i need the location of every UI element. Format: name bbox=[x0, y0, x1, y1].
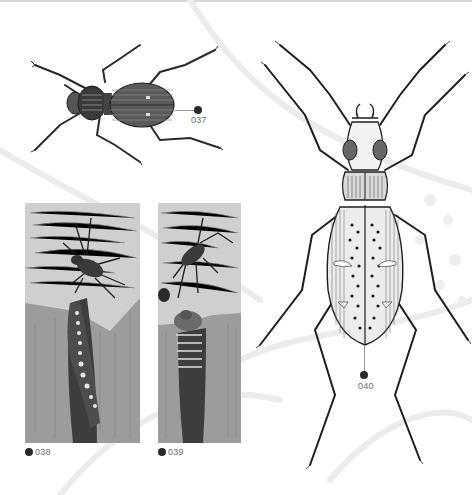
figure-039-panel bbox=[158, 203, 241, 443]
callout-dot-039 bbox=[158, 448, 166, 456]
figure-label-037: 037 bbox=[191, 115, 207, 125]
beetle-037-illustration bbox=[0, 0, 240, 180]
figure-label-040: 040 bbox=[358, 381, 374, 391]
callout-dot-037 bbox=[194, 106, 202, 114]
leader-line-040 bbox=[364, 345, 365, 373]
figure-label-039: 039 bbox=[168, 447, 184, 457]
beetle-attacking-larva-illustration bbox=[25, 203, 140, 443]
figure-label-038: 038 bbox=[35, 447, 51, 457]
callout-dot-038 bbox=[25, 448, 33, 456]
callout-dot-040 bbox=[360, 371, 368, 379]
figure-037: 037 bbox=[0, 0, 240, 180]
beetle-040-illustration bbox=[240, 0, 472, 495]
figure-038-panel bbox=[25, 203, 140, 443]
figure-040: 040 bbox=[240, 0, 472, 495]
beetle-and-larva-at-burrow-illustration bbox=[158, 203, 241, 443]
